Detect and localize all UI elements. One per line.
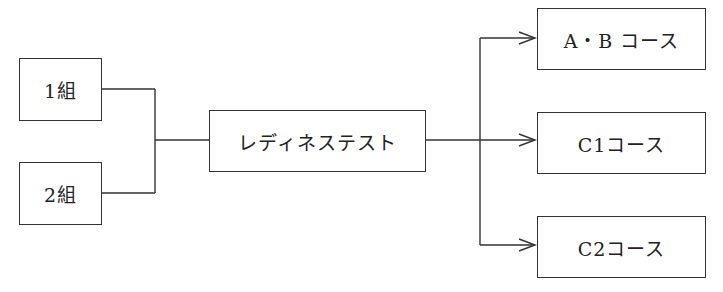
output-label: C1コース <box>578 130 666 157</box>
input-box-class-1: 1組 <box>19 58 102 121</box>
output-box-c2-course: C2コース <box>537 216 706 278</box>
input-label: 2組 <box>44 180 77 207</box>
output-label: C2コース <box>578 234 666 261</box>
output-box-ab-course: A・B コース <box>537 8 706 70</box>
output-label: A・B コース <box>564 26 680 53</box>
center-box-readiness-test: レディネステスト <box>209 110 426 172</box>
output-box-c1-course: C1コース <box>537 112 706 174</box>
center-label: レディネステスト <box>238 128 397 155</box>
input-box-class-2: 2組 <box>19 162 102 225</box>
input-label: 1組 <box>44 76 77 103</box>
